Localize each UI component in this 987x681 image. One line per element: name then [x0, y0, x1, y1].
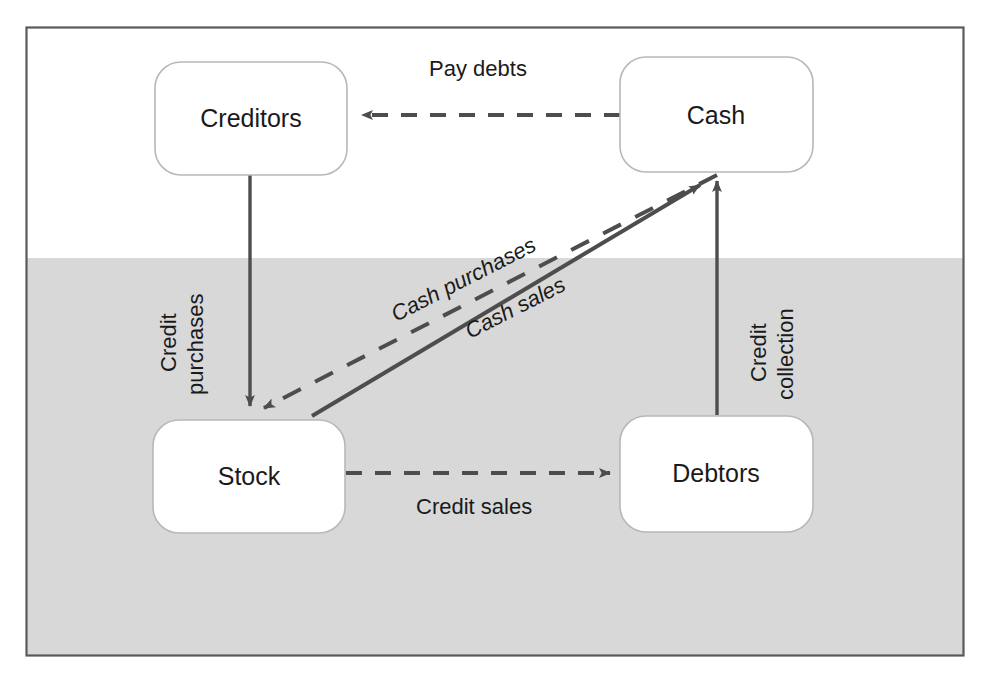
credit-purchases-label-line2: purchases [183, 293, 208, 395]
working-capital-cycle-diagram: Creditors Cash Stock Debtors Pay debts C… [0, 0, 987, 681]
stock-label: Stock [218, 462, 281, 490]
debtors-label: Debtors [672, 459, 760, 487]
credit-sales-label: Credit sales [416, 494, 532, 519]
creditors-label: Creditors [200, 104, 301, 132]
credit-collection-label-line1: Credit [746, 323, 771, 382]
node-cash[interactable]: Cash [620, 57, 813, 172]
credit-purchases-label-line1: Credit [156, 313, 181, 372]
node-debtors[interactable]: Debtors [620, 416, 813, 532]
diagram-canvas: Creditors Cash Stock Debtors Pay debts C… [0, 0, 987, 681]
credit-collection-label-line2: collection [773, 308, 798, 400]
pay-debts-label: Pay debts [429, 56, 527, 81]
node-stock[interactable]: Stock [153, 420, 345, 533]
node-creditors[interactable]: Creditors [155, 62, 347, 175]
cash-label: Cash [687, 101, 745, 129]
